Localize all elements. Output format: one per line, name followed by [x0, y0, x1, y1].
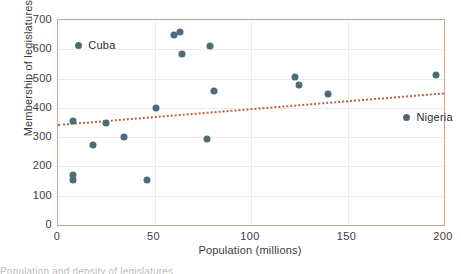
- data-point: [153, 104, 160, 111]
- x-tick-label: 200: [433, 230, 452, 242]
- data-point: [211, 88, 218, 95]
- point-annotation: Nigeria: [403, 111, 452, 123]
- annotation-label: Nigeria: [416, 111, 452, 123]
- data-point: [120, 134, 127, 141]
- x-tick-label: 50: [147, 230, 160, 242]
- data-point: [176, 28, 183, 35]
- y-tick-label: 100: [4, 189, 52, 201]
- point-annotation: Cuba: [75, 39, 115, 51]
- data-point: [433, 71, 440, 78]
- y-tick-label: 0: [4, 218, 52, 230]
- data-point: [103, 119, 110, 126]
- data-point: [89, 142, 96, 149]
- y-tick-label: 600: [4, 42, 52, 54]
- data-point: [292, 74, 299, 81]
- data-point: [325, 91, 332, 98]
- x-tick-label: 100: [240, 230, 259, 242]
- y-tick-label: 700: [4, 13, 52, 25]
- data-point: [296, 82, 303, 89]
- data-point: [203, 135, 210, 142]
- x-axis-title: Population (millions): [57, 244, 443, 256]
- y-tick-label: 200: [4, 159, 52, 171]
- figure-caption: Population and density of legislatures: [0, 266, 461, 274]
- y-tick-label: 500: [4, 72, 52, 84]
- x-tick-label: 0: [54, 230, 60, 242]
- annotation-marker-icon: [403, 114, 410, 121]
- y-tick-label: 300: [4, 130, 52, 142]
- data-point: [178, 50, 185, 57]
- gridline-vertical: [348, 20, 349, 225]
- annotation-marker-icon: [75, 42, 82, 49]
- gridline-vertical: [155, 20, 156, 225]
- data-point: [207, 43, 214, 50]
- gridline-vertical: [251, 20, 252, 225]
- scatter-chart-figure: Membership of legislatures 0100200300400…: [0, 0, 461, 274]
- annotation-label: Cuba: [88, 39, 115, 51]
- y-tick-label: 400: [4, 101, 52, 113]
- data-point: [143, 176, 150, 183]
- x-tick-label: 150: [337, 230, 356, 242]
- plot-area: CubaNigeria: [57, 19, 445, 226]
- data-point: [70, 118, 77, 125]
- data-point: [70, 176, 77, 183]
